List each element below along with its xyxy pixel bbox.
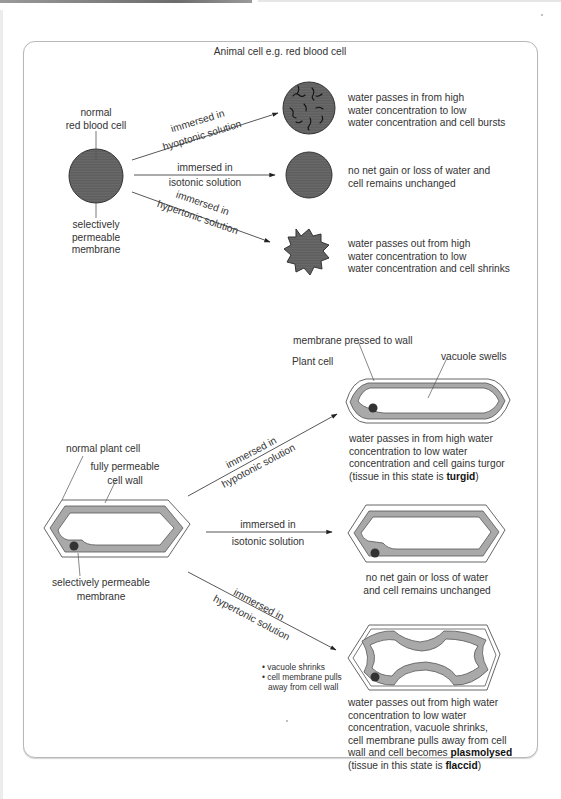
outcome-line: water concentration and cell bursts	[348, 117, 505, 130]
plant-membrane-label: selectively permeable membrane	[38, 577, 164, 603]
normal-rbc-label: normal red blood cell	[56, 107, 136, 132]
shrunken-red-blood-cell	[284, 229, 329, 275]
outcome-line: water passes out from high	[348, 238, 510, 251]
normal-plant-cell-label: normal plant cell	[66, 443, 140, 456]
unchanged-red-blood-cell	[286, 152, 332, 198]
note-vacuole-shrinks: • vacuole shrinks	[262, 662, 342, 672]
outcome-line: water passes in from high water	[349, 433, 505, 446]
speck	[286, 720, 288, 722]
plasmolysed-plant-cell	[348, 625, 500, 690]
outcome-line: concentration to low water	[348, 710, 512, 723]
plant-isotonic-outcome: no net gain or loss of water and cell re…	[352, 572, 502, 597]
plant-membrane-label-line2: membrane	[38, 591, 164, 604]
outcome-line: water concentration to low	[348, 105, 505, 118]
animal-isotonic-label-line1: immersed in	[150, 162, 260, 175]
plant-isotonic-label-line2: isotonic solution	[218, 536, 318, 549]
vacuole-swells-label: vacuole swells	[441, 351, 507, 364]
outcome-text: wall and cell becomes	[348, 747, 451, 758]
plasmolysed-term: plasmolysed	[451, 747, 513, 758]
outcome-line: wall and cell becomes plasmolysed	[348, 747, 512, 760]
rbc-membrane-label: selectively permeable membrane	[56, 219, 136, 257]
outcome-line: cell membrane pulls away from cell	[348, 735, 512, 748]
rbc-membrane-label-line3: membrane	[56, 244, 136, 257]
outcome-line: water passes out from high water	[348, 697, 512, 710]
animal-hypertonic-outcome: water passes out from high water concent…	[348, 238, 510, 276]
outcome-line: no net gain or loss of water and	[348, 165, 490, 178]
outcome-line: and cell remains unchanged	[352, 585, 502, 598]
plant-isotonic-label: immersed in isotonic solution	[218, 519, 318, 548]
rbc-membrane-label-line1: selectively	[56, 219, 136, 232]
cell-wall-label-line2: cell wall	[82, 475, 168, 488]
outcome-line: concentration, vacuole shrinks,	[348, 722, 512, 735]
outcome-line: water passes in from high	[348, 92, 505, 105]
outcome-line: (tissue in this state is flaccid)	[348, 760, 512, 773]
outcome-text: (tissue in this state is	[348, 760, 445, 771]
animal-section-title: Animal cell e.g. red blood cell	[190, 46, 370, 59]
plant-isotonic-label-line1: immersed in	[218, 519, 318, 532]
unchanged-plant-cell	[348, 505, 505, 562]
outcome-line: water concentration and cell shrinks	[348, 263, 510, 276]
normal-red-blood-cell	[69, 131, 123, 218]
note-membrane-pulls: • cell membrane pulls	[262, 672, 342, 682]
flaccid-term: flaccid	[445, 760, 477, 771]
plant-section-title: Plant cell	[292, 356, 333, 369]
plant-hypotonic-outcome: water passes in from high water concentr…	[349, 433, 505, 483]
plant-membrane-label-line1: selectively permeable	[38, 577, 164, 590]
normal-rbc-label-line1: normal	[56, 107, 136, 120]
plasmolysis-notes: • vacuole shrinks • cell membrane pulls …	[262, 662, 342, 693]
outcome-line: (tissue in this state is turgid)	[349, 471, 505, 484]
normal-rbc-label-line2: red blood cell	[56, 120, 136, 133]
outcome-line: concentration to low water	[349, 446, 505, 459]
note-membrane-pulls-cont: away from cell wall	[262, 682, 342, 692]
turgid-term: turgid	[446, 471, 475, 482]
animal-isotonic-outcome: no net gain or loss of water and cell re…	[348, 165, 490, 190]
speck	[541, 14, 543, 16]
outcome-text: )	[475, 471, 478, 482]
outcome-line: no net gain or loss of water	[352, 572, 502, 585]
outcome-line: concentration and cell gains turgor	[349, 458, 505, 471]
animal-hypotonic-outcome: water passes in from high water concentr…	[348, 92, 505, 130]
outcome-line: water concentration to low	[348, 251, 510, 264]
burst-red-blood-cell	[283, 82, 335, 134]
outcome-line: cell remains unchanged	[348, 178, 490, 191]
outcome-text: (tissue in this state is	[349, 471, 446, 482]
membrane-pressed-label: membrane pressed to wall	[293, 335, 412, 348]
cell-wall-label: fully permeable cell wall	[82, 461, 168, 487]
outcome-text: )	[478, 760, 481, 771]
cell-wall-label-line1: fully permeable	[82, 461, 168, 474]
plant-hypertonic-outcome: water passes out from high water concent…	[348, 697, 512, 773]
rbc-membrane-label-line2: permeable	[56, 232, 136, 245]
